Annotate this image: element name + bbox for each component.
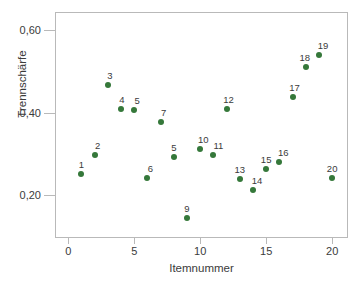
data-point-label: 15 xyxy=(261,154,272,165)
x-tick-mark xyxy=(200,238,201,244)
y-tick-mark xyxy=(44,113,55,114)
x-tick-label: 20 xyxy=(317,245,347,257)
data-point-label: 7 xyxy=(161,107,166,118)
data-point-label: 9 xyxy=(184,203,189,214)
data-point xyxy=(92,152,98,158)
y-tick-label: 0,20 xyxy=(0,189,41,201)
data-point xyxy=(250,187,256,193)
data-point xyxy=(158,119,164,125)
x-tick-mark xyxy=(332,238,333,244)
data-point xyxy=(105,82,111,88)
data-point-label: 3 xyxy=(107,70,112,81)
plot-frame xyxy=(55,12,348,238)
data-point xyxy=(290,94,296,100)
data-point-label: 10 xyxy=(198,134,209,145)
data-point xyxy=(316,52,322,58)
data-point-label: 6 xyxy=(148,163,153,174)
data-point xyxy=(303,64,309,70)
data-point-label: 4 xyxy=(119,94,124,105)
data-point xyxy=(118,106,124,112)
x-tick-label: 5 xyxy=(119,245,149,257)
data-point xyxy=(237,176,243,182)
data-point-label: 16 xyxy=(278,147,289,158)
data-point-label: 1 xyxy=(79,159,84,170)
x-tick-mark xyxy=(68,238,69,244)
x-tick-mark xyxy=(134,238,135,244)
x-tick-label: 15 xyxy=(251,245,281,257)
data-point-label: 11 xyxy=(213,140,223,151)
data-point-label: 18 xyxy=(299,52,310,63)
x-tick-label: 0 xyxy=(53,245,83,257)
y-tick-label: 0,40 xyxy=(0,107,41,119)
x-axis-title: Itemnummer xyxy=(55,262,348,274)
data-point-label: 12 xyxy=(223,94,234,105)
data-point-label: 20 xyxy=(327,163,338,174)
data-point xyxy=(224,106,230,112)
data-point-label: 2 xyxy=(95,140,100,151)
y-axis-title: Trennschärfe xyxy=(16,24,28,144)
data-point-label: 14 xyxy=(252,175,263,186)
data-point xyxy=(171,154,177,160)
data-point-label: 5 xyxy=(171,142,176,153)
x-tick-label: 10 xyxy=(185,245,215,257)
scatter-chart: Trennschärfe 0,200,400,60 05101520 12345… xyxy=(0,0,362,288)
x-tick-mark xyxy=(266,238,267,244)
data-point-label: 13 xyxy=(234,164,245,175)
data-point-label: 19 xyxy=(318,40,329,51)
data-point xyxy=(197,146,203,152)
y-tick-mark xyxy=(44,195,55,196)
y-tick-label: 0,60 xyxy=(0,24,41,36)
data-point-label: 17 xyxy=(289,82,300,93)
y-tick-mark xyxy=(44,30,55,31)
data-point-label: 5 xyxy=(135,95,140,106)
